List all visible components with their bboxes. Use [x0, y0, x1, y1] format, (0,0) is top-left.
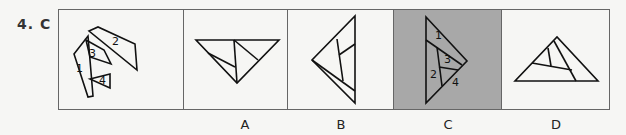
answer-letter: C — [40, 16, 51, 32]
region-label-4: 4 — [452, 76, 459, 89]
pieces-figure: 1 2 3 4 — [59, 10, 184, 110]
region-label-3: 3 — [444, 53, 451, 66]
question-number: 4. C — [17, 16, 51, 32]
piece-label-1: 1 — [76, 62, 83, 75]
piece-2 — [89, 27, 137, 70]
option-b-figure — [288, 10, 394, 110]
option-d-figure — [502, 10, 609, 110]
pieces-panel: 1 2 3 4 — [59, 10, 184, 109]
option-d-label: D — [546, 117, 566, 132]
option-a-label: A — [235, 117, 255, 132]
option-a-panel[interactable] — [184, 10, 288, 109]
option-a-figure — [184, 10, 288, 110]
piece-label-2: 2 — [112, 35, 119, 48]
region-label-2: 2 — [430, 68, 437, 81]
piece-label-4: 4 — [99, 74, 106, 87]
option-c-figure: 1 2 3 4 — [394, 10, 502, 110]
option-b-panel[interactable] — [288, 10, 394, 109]
region-label-1: 1 — [435, 29, 442, 42]
option-d-panel[interactable] — [502, 10, 609, 109]
option-c-panel[interactable]: 1 2 3 4 — [394, 10, 502, 109]
figure-strip: 1 2 3 4 — [58, 9, 610, 110]
option-c-label: C — [438, 117, 458, 132]
option-b-label: B — [331, 117, 351, 132]
piece-label-3: 3 — [89, 47, 96, 60]
